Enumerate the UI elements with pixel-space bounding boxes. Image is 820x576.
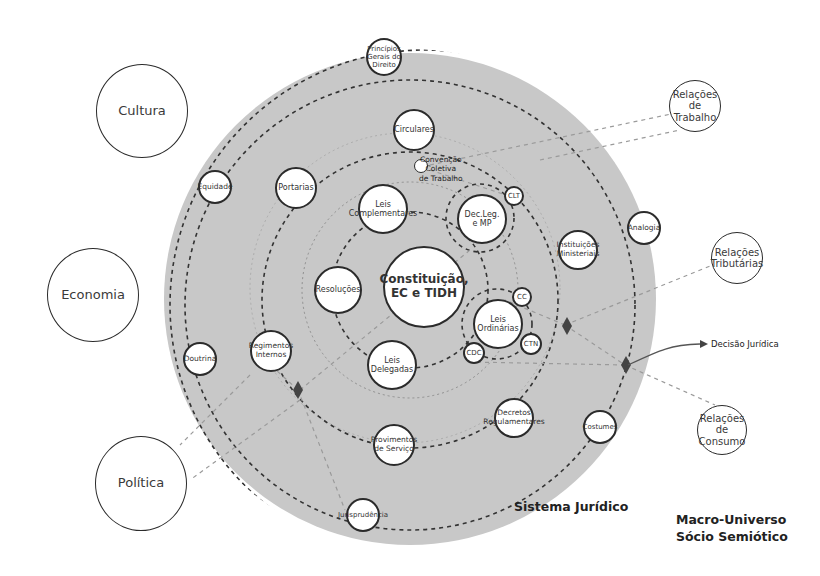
label: Jurisprudência [338, 511, 388, 519]
node-decretos[interactable]: Decretos Regulamentares [494, 398, 534, 438]
node-cultura[interactable]: Cultura [96, 64, 188, 158]
label: Portarias [278, 183, 313, 192]
label: Regimentos Internos [249, 342, 293, 359]
node-relacoes-trabalho[interactable]: Relações de Trabalho [669, 80, 721, 132]
node-cc[interactable]: CC [512, 287, 532, 307]
node-equidade[interactable]: Equidade [198, 170, 232, 204]
label: Cultura [118, 104, 166, 119]
legal-system-diagram: Cultura Economia Política Relações de Tr… [0, 0, 820, 576]
node-doutrina[interactable]: Doutrina [183, 342, 217, 376]
label: Instituições Ministeriais [557, 241, 600, 258]
node-jurisprudencia[interactable]: Jurisprudência [346, 498, 380, 532]
node-relacoes-consumo[interactable]: Relações de Consumo [697, 405, 747, 455]
node-resolucoes[interactable]: Resoluções [314, 266, 362, 314]
decision-label: Decisão Jurídica [711, 339, 779, 349]
label: Relações Tributárias [711, 247, 764, 270]
label: Leis Ordinárias [477, 315, 518, 333]
label: CC [517, 293, 527, 301]
label: Política [118, 476, 164, 491]
node-dec-leg[interactable]: Dec.Leg. e MP [457, 194, 507, 244]
node-analogia[interactable]: Analogia [627, 211, 661, 245]
node-ctn[interactable]: CTN [520, 333, 542, 355]
node-leis-delegadas[interactable]: Leis Delegadas [367, 340, 417, 390]
label: Resoluções [316, 285, 361, 294]
node-principios[interactable]: Princípios Gerais do Direito [366, 38, 402, 76]
node-costumes[interactable]: Costumes [583, 410, 617, 444]
node-economia[interactable]: Economia [47, 248, 139, 342]
label: Circulares [394, 125, 434, 134]
label: CDC [466, 349, 481, 357]
label: Economia [61, 288, 125, 303]
label: Constituição, EC e TIDH [380, 273, 469, 301]
node-provimentos[interactable]: Provimentos de Serviço [373, 424, 415, 466]
node-politica[interactable]: Política [95, 436, 187, 531]
node-regimentos[interactable]: Regimentos Internos [250, 330, 292, 372]
node-leis-ordinarias[interactable]: Leis Ordinárias [473, 299, 523, 349]
node-instituicoes[interactable]: Instituições Ministeriais [558, 230, 598, 270]
label: CTN [524, 340, 538, 348]
label-convencao: Convenção Coletiva de Trabalho [419, 155, 463, 183]
node-clt[interactable]: CLT [504, 186, 524, 206]
label: Provimentos de Serviço [371, 436, 418, 453]
node-portarias[interactable]: Portarias [275, 167, 317, 209]
node-constituicao[interactable]: Constituição, EC e TIDH [383, 246, 465, 328]
label: Relações de Trabalho [671, 89, 719, 124]
label: Costumes [583, 423, 618, 431]
label: Leis Delegadas [371, 356, 413, 374]
label: Analogia [628, 224, 661, 233]
node-circulares[interactable]: Circulares [393, 109, 435, 151]
node-leis-complementares[interactable]: Leis Complementares [358, 184, 408, 234]
label: Decretos Regulamentares [483, 409, 544, 426]
label: Doutrina [184, 355, 217, 364]
universe-title: Macro-Universo Sócio Semiótico [676, 512, 788, 546]
label: Equidade [197, 183, 232, 192]
label: Dec.Leg. e MP [465, 210, 500, 228]
label: Leis Complementares [349, 200, 418, 218]
node-cdc[interactable]: CDC [463, 342, 485, 364]
system-title: Sistema Jurídico [514, 499, 628, 514]
label: CLT [508, 192, 520, 200]
label: Princípios Gerais do Direito [367, 45, 400, 69]
label: Relações de Consumo [699, 413, 746, 448]
node-relacoes-tributarias[interactable]: Relações Tributárias [711, 232, 763, 284]
